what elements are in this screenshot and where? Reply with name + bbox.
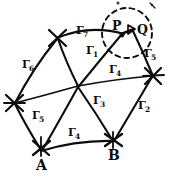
- edge-v2-v3: [15, 86, 78, 103]
- station-mark-v1: [49, 30, 66, 46]
- edge-label-gamma-1: Γ1: [86, 45, 98, 59]
- junction-node-v3: [76, 84, 79, 87]
- edge-label-gamma-4-bottom-sub: 4: [75, 132, 80, 141]
- vertex-label-p: P: [112, 20, 121, 33]
- edge-a-b: [41, 141, 114, 151]
- vertex-label-b: B: [108, 148, 120, 162]
- triangulation-network-figure: Γ7 Γ1 Γ6 Γ4 Γ5 Γ3 Γ2 Γ5 Γ4 A B P Q: [0, 0, 170, 181]
- edge-label-gamma-4-middle-sub: 4: [116, 69, 121, 78]
- edge-label-gamma-2-sub: 2: [145, 105, 150, 114]
- edge-label-gamma-5-left: Γ5: [32, 110, 44, 124]
- edge-label-gamma-3: Γ3: [93, 95, 105, 109]
- edge-label-gamma-1-sub: 1: [93, 50, 98, 59]
- edge-label-gamma-4-bottom: Γ4: [68, 127, 80, 141]
- station-mark-v2: [4, 95, 25, 111]
- edge-label-gamma-7-sub: 7: [83, 30, 88, 39]
- edge-label-gamma-6: Γ6: [22, 59, 34, 73]
- vertex-label-q: Q: [137, 24, 148, 37]
- pen-speck-3: [150, 3, 155, 8]
- edge-label-gamma-3-sub: 3: [100, 100, 105, 109]
- vertex-label-a: A: [36, 158, 47, 172]
- edge-p-v3: [79, 34, 122, 86]
- edge-label-gamma-6-sub: 6: [29, 64, 34, 73]
- station-mark-v4: [143, 68, 164, 84]
- edge-v1-v3: [58, 39, 78, 86]
- pen-speck-1: [117, 2, 120, 5]
- edge-label-gamma-4-middle: Γ4: [109, 64, 121, 78]
- edge-label-gamma-2: Γ2: [138, 100, 150, 114]
- edge-label-gamma-7: Γ7: [76, 25, 88, 39]
- edge-label-gamma-5-left-sub: 5: [39, 115, 44, 124]
- edge-label-gamma-5-right: Γ5: [144, 48, 156, 62]
- edge-label-gamma-5-right-sub: 5: [151, 53, 156, 62]
